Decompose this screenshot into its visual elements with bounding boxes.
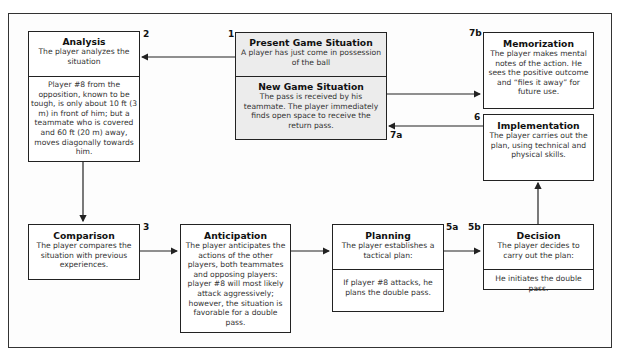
new-situation-section: New Game Situation The pass is received … (236, 76, 386, 132)
anticipation-desc: The player anticipates the actions of th… (184, 241, 287, 327)
comparison-box: Comparison The player compares the situa… (28, 224, 140, 280)
analysis-header: Analysis The player analyzes the situati… (29, 32, 139, 76)
step-number-2: 2 (143, 29, 149, 39)
analysis-desc: The player analyzes the situation (32, 47, 136, 66)
planning-detail-section: If player #8 attacks, he plans the doubl… (333, 269, 443, 299)
implementation-title: Implementation (487, 120, 590, 131)
comparison-title: Comparison (32, 230, 136, 241)
memorization-desc: The player makes mental notes of the act… (487, 49, 590, 97)
step-number-7a: 7a (390, 130, 402, 140)
analysis-detail-section: Player #8 from the opposition, known to … (29, 76, 139, 160)
step-number-5b: 5b (468, 222, 481, 232)
memorization-box: Memorization The player makes mental not… (483, 32, 594, 109)
anticipation-title: Anticipation (184, 230, 287, 241)
decision-detail-section: He initiates the double pass. (484, 269, 593, 297)
step-number-5a: 5a (446, 222, 458, 232)
anticipation-section: Anticipation The player anticipates the … (181, 225, 290, 329)
analysis-title: Analysis (32, 36, 136, 47)
implementation-box: Implementation The player carries out th… (483, 114, 594, 181)
decision-desc: The player decides to carry out the plan… (487, 241, 590, 260)
planning-box: Planning The player establishes a tactic… (332, 224, 444, 312)
memorization-title: Memorization (487, 38, 590, 49)
planning-title: Planning (336, 230, 440, 241)
step-number-3: 3 (143, 222, 149, 232)
anticipation-box: Anticipation The player anticipates the … (180, 224, 291, 333)
step-number-6: 6 (474, 112, 480, 122)
new-situation-desc: The pass is received by his teammate. Th… (239, 92, 383, 130)
step-number-7b: 7b (469, 28, 482, 38)
implementation-section: Implementation The player carries out th… (484, 115, 593, 162)
decision-header: Decision The player decides to carry out… (484, 225, 593, 269)
analysis-detail: Player #8 from the opposition, known to … (30, 80, 138, 157)
comparison-desc: The player compares the situation with p… (32, 241, 136, 270)
present-title: Present Game Situation (239, 37, 383, 48)
step-number-1: 1 (228, 29, 234, 39)
decision-box: Decision The player decides to carry out… (483, 224, 594, 290)
memorization-section: Memorization The player makes mental not… (484, 33, 593, 99)
implementation-desc: The player carries out the plan, using t… (487, 131, 590, 160)
planning-detail: If player #8 attacks, he plans the doubl… (336, 278, 440, 297)
decision-title: Decision (487, 230, 590, 241)
decision-detail: He initiates the double pass. (485, 274, 592, 293)
planning-header: Planning The player establishes a tactic… (333, 225, 443, 269)
game-situation-box: Present Game Situation A player has just… (235, 32, 387, 140)
planning-desc: The player establishes a tactical plan: (336, 241, 440, 260)
present-desc: A player has just come in possession of … (239, 48, 383, 67)
present-situation-section: Present Game Situation A player has just… (236, 33, 386, 76)
analysis-box: Analysis The player analyzes the situati… (28, 31, 140, 162)
comparison-section: Comparison The player compares the situa… (29, 225, 139, 272)
new-situation-title: New Game Situation (239, 81, 383, 92)
